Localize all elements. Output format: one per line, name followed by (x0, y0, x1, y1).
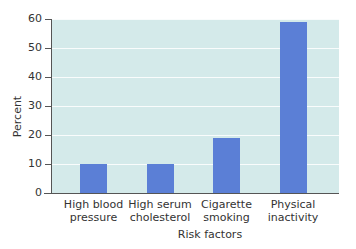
y-tick-mark (45, 193, 51, 194)
bar (80, 164, 107, 193)
bar (280, 22, 307, 193)
bar (147, 164, 174, 193)
gridline (51, 19, 339, 20)
y-tick-mark (45, 77, 51, 78)
y-tick-label: 40 (12, 71, 42, 83)
y-tick-label: 10 (12, 158, 42, 170)
y-axis-title: Percent (11, 92, 24, 142)
x-axis-line (44, 193, 339, 194)
bar (213, 138, 240, 193)
y-tick-mark (45, 135, 51, 136)
y-tick-label: 0 (12, 187, 42, 199)
y-tick-mark (45, 19, 51, 20)
x-axis-title: Risk factors (150, 228, 270, 241)
y-tick-label: 60 (12, 13, 42, 25)
x-category-label: Physicalinactivity (248, 198, 338, 224)
plot-area (51, 19, 339, 193)
y-tick-mark (45, 164, 51, 165)
y-tick-mark (45, 48, 51, 49)
y-axis-line (51, 19, 52, 194)
y-tick-mark (45, 106, 51, 107)
y-tick-label: 50 (12, 42, 42, 54)
